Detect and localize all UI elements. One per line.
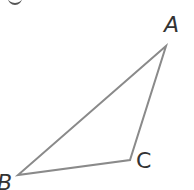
triangle-diagram: A B C: [0, 0, 194, 190]
vertex-label-c: C: [136, 150, 151, 172]
vertex-label-b: B: [0, 172, 12, 190]
vertex-label-a: A: [164, 14, 179, 36]
